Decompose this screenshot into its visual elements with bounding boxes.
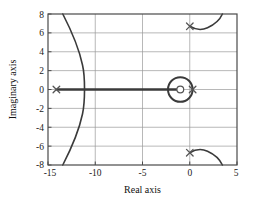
plot-canvas: -15 -10 -5 0 5 8 6 4 2 0 -2 -4 -6 -8 Rea…	[0, 0, 255, 203]
y-tick-label-4: 4	[39, 47, 44, 57]
y-tick-label-neg8: -8	[36, 160, 44, 170]
x-tick-labels: -15 -10 -5 0 5	[44, 168, 239, 178]
x-tick-label-neg15: -15	[44, 168, 57, 178]
y-tick-label-8: 8	[39, 10, 44, 20]
y-tick-label-6: 6	[39, 28, 44, 38]
y-tick-label-neg4: -4	[36, 123, 44, 133]
x-tick-label-0: 0	[187, 168, 192, 178]
y-tick-label-neg6: -6	[36, 142, 44, 152]
y-tick-labels: 8 6 4 2 0 -2 -4 -6 -8	[36, 10, 44, 171]
zero-marker-neg1	[177, 86, 184, 93]
x-tick-label-5: 5	[234, 168, 239, 178]
x-tick-label-neg10: -10	[89, 168, 102, 178]
x-axis-title: Real axis	[124, 184, 161, 195]
root-locus-figure: -15 -10 -5 0 5 8 6 4 2 0 -2 -4 -6 -8 Rea…	[0, 0, 255, 203]
y-tick-label-2: 2	[39, 66, 44, 76]
x-tick-label-neg5: -5	[139, 168, 147, 178]
y-tick-label-0: 0	[39, 85, 44, 95]
y-axis-title: Imaginary axis	[7, 60, 18, 120]
y-tick-label-neg2: -2	[36, 104, 44, 114]
